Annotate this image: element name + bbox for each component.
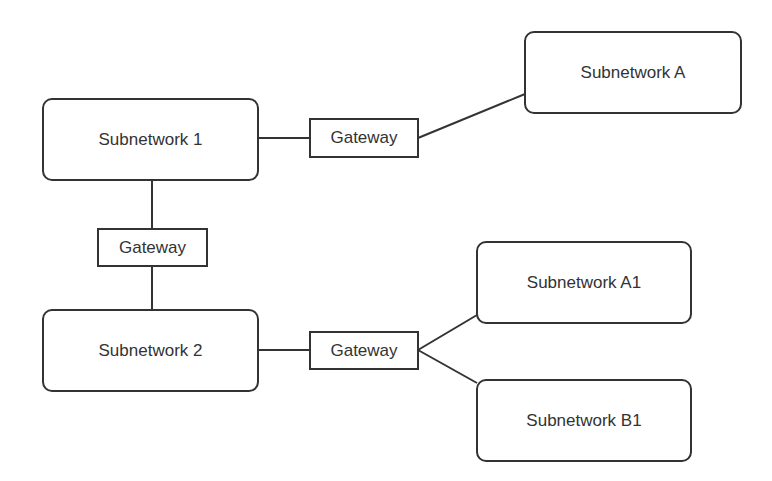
gateway-1-a-label: Gateway (330, 128, 397, 148)
subnetwork-a1-label: Subnetwork A1 (527, 273, 641, 293)
subnetwork-2-node: Subnetwork 2 (42, 309, 259, 392)
subnetwork-a-label: Subnetwork A (581, 63, 686, 83)
subnetwork-a1-node: Subnetwork A1 (476, 241, 692, 324)
subnetwork-1-label: Subnetwork 1 (99, 130, 203, 150)
subnetwork-1-node: Subnetwork 1 (42, 98, 259, 181)
edge-gateway-subnetB1 (418, 350, 477, 383)
gateway-2-a1b1-node: Gateway (309, 331, 419, 370)
gateway-1-2-node: Gateway (97, 228, 208, 267)
subnetwork-b1-label: Subnetwork B1 (526, 411, 641, 431)
subnetwork-b1-node: Subnetwork B1 (476, 379, 692, 462)
subnetwork-a-node: Subnetwork A (524, 31, 742, 114)
gateway-1-a-node: Gateway (309, 118, 419, 158)
edge-gateway-subnetA1 (418, 315, 477, 350)
gateway-2-a1b1-label: Gateway (330, 341, 397, 361)
subnetwork-2-label: Subnetwork 2 (99, 341, 203, 361)
edge-gateway-subnetA (418, 94, 525, 138)
gateway-1-2-label: Gateway (119, 238, 186, 258)
